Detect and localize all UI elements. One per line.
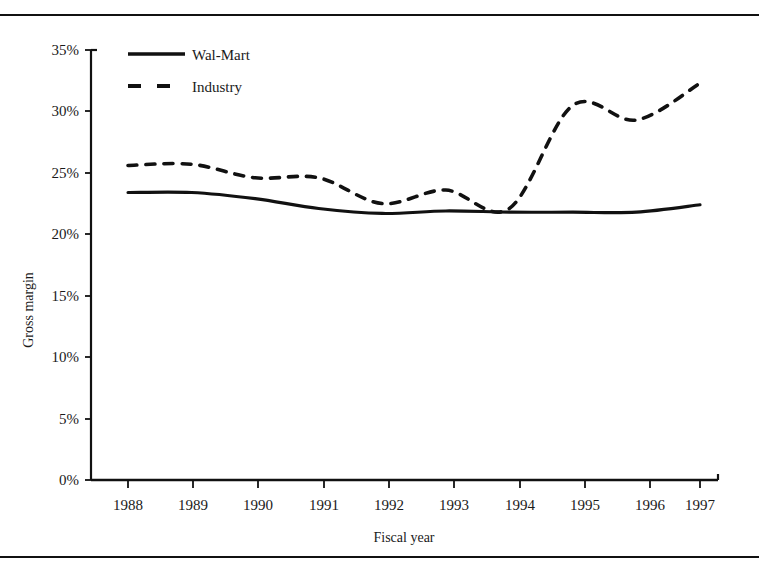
y-tick-label-10: 10% xyxy=(52,349,80,365)
y-tick-label-30: 30% xyxy=(52,103,80,119)
y-tick-label-25: 25% xyxy=(52,165,80,181)
figure-container: 35% 30% 25% 20% 15% 10% 5% 0% Gross marg… xyxy=(0,0,759,573)
y-tick-label-15: 15% xyxy=(52,288,80,304)
series-line-wal-mart xyxy=(128,192,700,213)
clipped-header-text xyxy=(0,0,759,2)
y-tick-label-0: 0% xyxy=(59,472,79,488)
y-tick-label-35: 35% xyxy=(52,42,80,58)
x-tick-label-1995: 1995 xyxy=(570,497,600,513)
bottom-horizontal-rule xyxy=(0,556,759,558)
line-chart: 35% 30% 25% 20% 15% 10% 5% 0% Gross marg… xyxy=(0,20,759,556)
y-tick-label-20: 20% xyxy=(52,226,80,242)
legend-label-industry: Industry xyxy=(192,79,242,95)
x-tick-label-1992: 1992 xyxy=(374,497,404,513)
legend-label-wal-mart: Wal-Mart xyxy=(192,47,251,63)
x-tick-label-1996: 1996 xyxy=(635,497,666,513)
x-tick-label-1989: 1989 xyxy=(178,497,208,513)
x-tick-label-1991: 1991 xyxy=(309,497,339,513)
top-horizontal-rule xyxy=(0,14,759,16)
x-tick-label-1994: 1994 xyxy=(505,497,536,513)
y-tick-label-5: 5% xyxy=(59,411,79,427)
x-tick-label-1988: 1988 xyxy=(113,497,143,513)
y-axis-title: Gross margin xyxy=(21,272,36,348)
x-axis-title: Fiscal year xyxy=(373,530,434,545)
x-tick-label-1993: 1993 xyxy=(439,497,469,513)
chart-legend: Wal-Mart Industry xyxy=(128,47,251,95)
x-tick-label-1997: 1997 xyxy=(685,497,716,513)
x-tick-label-1990: 1990 xyxy=(243,497,273,513)
